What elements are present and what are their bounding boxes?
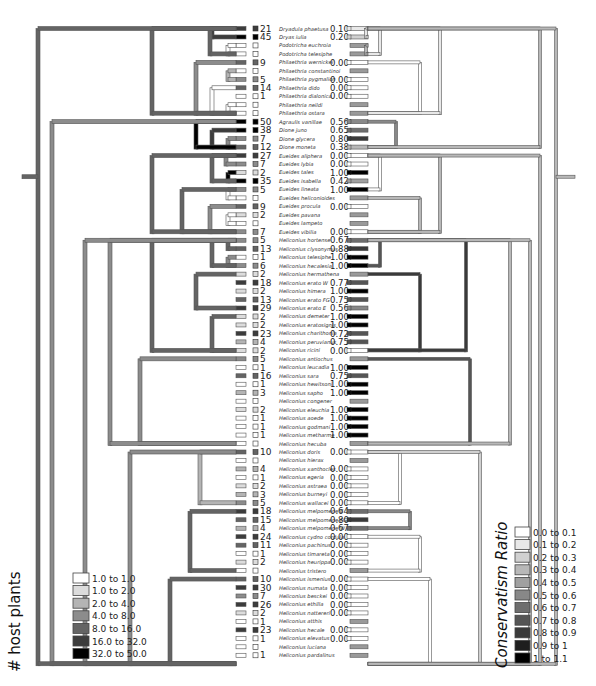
host-plants-legend-title: # host plants: [6, 571, 24, 672]
conservatism-ratio: 1.00: [330, 261, 349, 271]
species-name: Philaethria pygmalion: [279, 76, 336, 83]
species-name: Heliconius atthis: [279, 618, 322, 624]
species-name: Heliconius pardalinus: [279, 652, 335, 659]
ratio-marker-square: [347, 314, 351, 318]
host-marker-square: [253, 272, 258, 277]
host-marker-square: [253, 653, 258, 658]
species-name: Dryadula phaetusa: [279, 26, 328, 33]
legend-label: 4.0 to 8.0: [92, 611, 136, 621]
host-marker-square: [253, 263, 258, 268]
species-name: Heliconius tristero: [279, 568, 326, 574]
species-name: Eueides aliphera: [279, 153, 322, 160]
host-marker-square: [253, 433, 258, 438]
ratio-marker-square: [347, 467, 351, 471]
legend-label: 0.5 to 0.6: [533, 591, 577, 601]
host-marker-square: [253, 348, 258, 353]
legend-label: 0.1 to 0.2: [533, 540, 576, 550]
species-name: Heliconius aoede: [279, 415, 323, 421]
legend-entry: 0.8 to 0.9: [515, 628, 577, 639]
species-name: Heliconius elevatus: [279, 635, 330, 641]
ratio-marker-square: [347, 535, 351, 539]
host-marker-square: [253, 382, 258, 387]
species-name: Podotricha telesiphe: [279, 51, 332, 58]
taxon-row: 45Dryas iulia0.20: [253, 32, 351, 42]
host-marker-square: [253, 280, 258, 285]
species-name: Heliconius hecale: [279, 627, 325, 633]
legend-label: 16.0 to 32.0: [92, 637, 147, 647]
species-name: Heliconius pachinus: [279, 542, 331, 549]
legend-label: 0.9 to 1: [533, 641, 568, 651]
ratio-marker-square: [347, 382, 351, 386]
host-marker-square: [253, 365, 258, 370]
taxon-row: Heliconius tristero: [253, 568, 326, 574]
host-marker-square: [253, 51, 258, 56]
ratio-marker-square: [347, 27, 351, 31]
host-marker-square: [253, 602, 258, 607]
host-marker-square: [253, 322, 258, 327]
species-name: Dione moneta: [279, 144, 316, 150]
species-name: Philaethria dido: [279, 85, 320, 91]
host-marker-square: [253, 170, 258, 175]
species-name: Heliconius astraea: [279, 483, 327, 489]
legend-swatch: [515, 577, 530, 587]
host-marker-square: [253, 255, 258, 260]
species-name: Heliconius telesiphe: [279, 254, 331, 261]
legend-entry: 1.0 to 1.0: [73, 573, 136, 584]
species-name: Philaethria wernickei: [279, 59, 334, 65]
legend-swatch: [515, 603, 530, 613]
legend-label: 32.0 to 50.0: [92, 649, 147, 659]
species-name: Heliconius congener: [279, 398, 333, 405]
legend-entry: 16.0 to 32.0: [73, 636, 147, 647]
legend-swatch: [515, 628, 530, 638]
ratio-marker-square: [347, 331, 351, 335]
host-marker-square: [253, 492, 258, 497]
conservatism-ratio: 0.00: [330, 634, 349, 644]
ratio-marker-square: [347, 501, 351, 505]
conservatism-ratio: 1.00: [330, 185, 349, 195]
ratio-marker-square: [347, 145, 351, 149]
ratio-marker-square: [347, 416, 351, 420]
ratio-marker-square: [347, 154, 351, 158]
legend-entry: 0.4 to 0.5: [515, 577, 576, 588]
species-name: Heliconius egeria: [279, 474, 324, 481]
host-marker-square: [253, 204, 258, 209]
host-marker-square: [253, 145, 258, 150]
host-marker-square: [253, 610, 258, 615]
species-name: Philaethria constantinoi: [279, 68, 341, 74]
host-marker-square: [253, 136, 258, 141]
species-name: Heliconius luciana: [279, 644, 326, 650]
legend-swatch: [515, 565, 530, 575]
species-name: Agraulis vanillae: [278, 119, 322, 126]
host-marker-square: [253, 162, 258, 167]
host-marker-square: [253, 551, 258, 556]
species-name: Heliconius heurippa: [279, 559, 330, 566]
species-name: Philaethria neildi: [279, 102, 323, 108]
species-name: Eueides tales: [279, 169, 314, 175]
host-marker-square: [253, 526, 258, 531]
host-marker-square: [253, 314, 258, 319]
species-name: Heliconius charithonia: [279, 330, 337, 336]
ratio-marker-square: [347, 289, 351, 293]
legend-label: 0.7 to 0.8: [533, 616, 577, 626]
ratio-marker-square: [347, 255, 351, 259]
ratio-marker-square: [347, 77, 351, 81]
ratio-marker-square: [347, 374, 351, 378]
legend-swatch: [515, 527, 530, 537]
species-name: Heliconius doris: [279, 449, 320, 455]
ratio-marker-square: [347, 611, 351, 615]
legend-label: 2.0 to 4.0: [92, 599, 136, 609]
ratio-marker-square: [347, 408, 351, 412]
host-marker-square: [253, 356, 258, 361]
legend-swatch: [515, 653, 530, 663]
species-name: Heliconius peruvianus: [279, 339, 337, 346]
ratio-marker-square: [347, 450, 351, 454]
host-marker-square: [253, 34, 258, 39]
ratio-marker-square: [347, 602, 351, 606]
taxon-labels: 21Dryadula phaetusa0.1045Dryas iulia0.20…: [253, 24, 351, 661]
legend-swatch: [73, 636, 89, 646]
ratio-marker-square: [347, 323, 351, 327]
species-name: Eueides lineata: [279, 186, 319, 192]
conservatism-ratio: 1.00: [330, 388, 349, 398]
species-name: Heliconius hecuba: [279, 441, 326, 447]
species-name: Heliconius ismenius: [279, 576, 331, 582]
